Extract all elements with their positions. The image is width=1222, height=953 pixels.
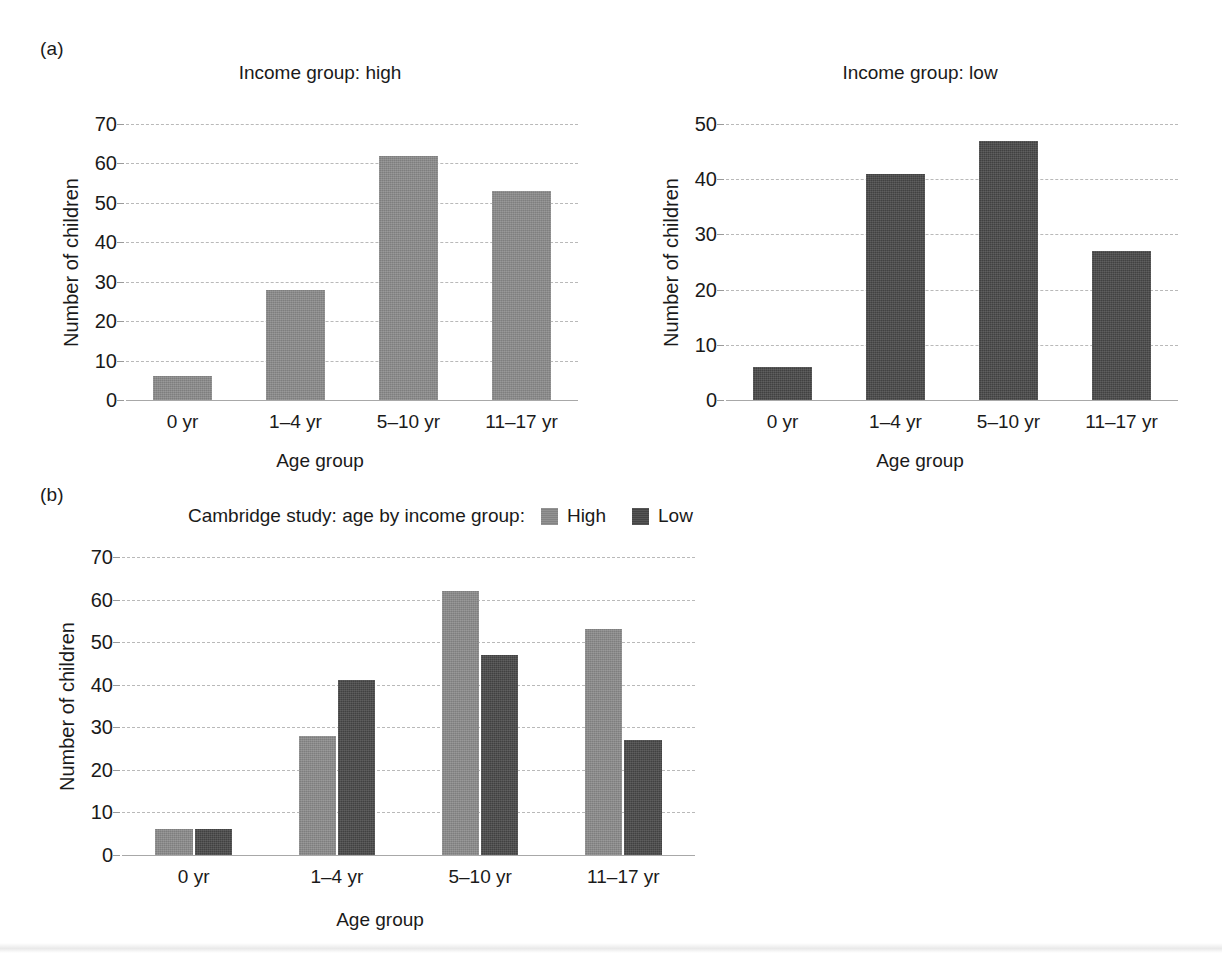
y-tick-label-50: 50 bbox=[695, 114, 717, 134]
bar-high-0 bbox=[155, 829, 192, 855]
y-tick-mark-40 bbox=[117, 242, 124, 243]
bar-low-0 bbox=[753, 367, 812, 400]
y-tick-label-60: 60 bbox=[91, 590, 113, 610]
legend-item-low[interactable]: Low bbox=[632, 505, 693, 527]
y-tick-mark-30 bbox=[117, 282, 124, 283]
gridline-0 bbox=[122, 855, 695, 856]
bar-low-2 bbox=[481, 655, 518, 855]
chart-high-plot-area: 0102030405060700 yr1–4 yr5–10 yr11–17 yr bbox=[126, 124, 578, 400]
y-tick-mark-10 bbox=[113, 812, 120, 813]
chart-combined-x-axis-label: Age group bbox=[40, 909, 720, 931]
gridline-30 bbox=[726, 234, 1178, 235]
x-tick-label-0: 0 yr bbox=[178, 866, 210, 888]
y-tick-label-40: 40 bbox=[95, 232, 117, 252]
gridline-60 bbox=[122, 600, 695, 601]
y-tick-mark-20 bbox=[113, 770, 120, 771]
x-tick-label-0: 0 yr bbox=[767, 411, 799, 433]
y-tick-mark-70 bbox=[113, 557, 120, 558]
bar-low-3 bbox=[624, 740, 661, 855]
chart-income-low: Income group: low Number of children 010… bbox=[640, 62, 1200, 462]
bar-low-3 bbox=[1092, 251, 1151, 400]
y-tick-mark-30 bbox=[717, 234, 724, 235]
legend-swatch-low-icon bbox=[632, 508, 649, 525]
gridline-70 bbox=[126, 124, 578, 125]
y-tick-label-50: 50 bbox=[95, 193, 117, 213]
chart-low-plot-area: 010203040500 yr1–4 yr5–10 yr11–17 yr bbox=[726, 124, 1178, 400]
y-tick-mark-30 bbox=[113, 727, 120, 728]
chart-low-y-axis-label: Number of children bbox=[660, 178, 683, 347]
x-tick-label-3: 11–17 yr bbox=[1085, 411, 1158, 433]
y-tick-label-10: 10 bbox=[91, 802, 113, 822]
y-tick-label-20: 20 bbox=[695, 280, 717, 300]
chart-combined-legend: Cambridge study: age by income group: Hi… bbox=[188, 505, 719, 527]
bar-high-0 bbox=[153, 376, 212, 400]
bar-high-2 bbox=[442, 591, 479, 855]
x-tick-label-3: 11–17 yr bbox=[485, 411, 558, 433]
x-tick-label-2: 5–10 yr bbox=[448, 866, 511, 888]
bar-high-1 bbox=[299, 736, 336, 855]
bar-high-3 bbox=[585, 629, 622, 855]
bar-low-0 bbox=[195, 829, 232, 855]
x-tick-label-0: 0 yr bbox=[167, 411, 199, 433]
y-tick-label-0: 0 bbox=[706, 390, 717, 410]
y-tick-mark-10 bbox=[117, 361, 124, 362]
x-tick-label-1: 1–4 yr bbox=[310, 866, 363, 888]
y-tick-mark-0 bbox=[113, 855, 120, 856]
chart-combined-y-axis-label: Number of children bbox=[56, 622, 79, 791]
bar-high-3 bbox=[492, 191, 551, 400]
chart-income-high: Income group: high Number of children 01… bbox=[40, 62, 600, 462]
legend-item-high[interactable]: High bbox=[541, 505, 606, 527]
y-tick-mark-50 bbox=[117, 203, 124, 204]
y-tick-label-0: 0 bbox=[106, 390, 117, 410]
gridline-0 bbox=[126, 400, 578, 401]
panel-b-label: (b) bbox=[40, 484, 64, 506]
legend-swatch-high-icon bbox=[541, 508, 558, 525]
x-tick-label-3: 11–17 yr bbox=[587, 866, 660, 888]
chart-high-title: Income group: high bbox=[40, 62, 600, 84]
y-tick-label-70: 70 bbox=[91, 547, 113, 567]
y-tick-mark-60 bbox=[113, 600, 120, 601]
y-tick-mark-0 bbox=[717, 400, 724, 401]
bar-low-1 bbox=[338, 680, 375, 855]
y-tick-label-70: 70 bbox=[95, 114, 117, 134]
y-tick-mark-20 bbox=[117, 321, 124, 322]
chart-combined-title: Cambridge study: age by income group: bbox=[188, 505, 525, 527]
x-tick-label-1: 1–4 yr bbox=[869, 411, 922, 433]
x-tick-label-2: 5–10 yr bbox=[377, 411, 440, 433]
bar-low-1 bbox=[866, 174, 925, 400]
gridline-0 bbox=[726, 400, 1178, 401]
chart-combined: Cambridge study: age by income group: Hi… bbox=[40, 505, 720, 925]
y-tick-mark-70 bbox=[117, 124, 124, 125]
chart-low-x-axis-label: Age group bbox=[640, 450, 1200, 472]
scan-edge-artifact bbox=[0, 943, 1222, 953]
x-tick-label-1: 1–4 yr bbox=[269, 411, 322, 433]
y-tick-mark-10 bbox=[717, 345, 724, 346]
x-tick-label-2: 5–10 yr bbox=[977, 411, 1040, 433]
gridline-70 bbox=[122, 557, 695, 558]
y-tick-mark-60 bbox=[117, 163, 124, 164]
gridline-40 bbox=[726, 179, 1178, 180]
y-tick-label-30: 30 bbox=[91, 717, 113, 737]
y-tick-mark-20 bbox=[717, 290, 724, 291]
y-tick-label-0: 0 bbox=[102, 845, 113, 865]
chart-high-y-axis-label: Number of children bbox=[60, 178, 83, 347]
y-tick-mark-0 bbox=[117, 400, 124, 401]
panel-a-label: (a) bbox=[40, 38, 64, 60]
y-tick-label-20: 20 bbox=[95, 311, 117, 331]
gridline-60 bbox=[126, 163, 578, 164]
bar-high-1 bbox=[266, 290, 325, 400]
y-tick-label-30: 30 bbox=[95, 272, 117, 292]
y-tick-label-40: 40 bbox=[695, 169, 717, 189]
y-tick-label-30: 30 bbox=[695, 224, 717, 244]
y-tick-label-20: 20 bbox=[91, 760, 113, 780]
bar-high-2 bbox=[379, 156, 438, 400]
bar-low-2 bbox=[979, 141, 1038, 400]
chart-high-x-axis-label: Age group bbox=[40, 450, 600, 472]
y-tick-label-40: 40 bbox=[91, 675, 113, 695]
y-tick-label-60: 60 bbox=[95, 153, 117, 173]
y-tick-mark-50 bbox=[113, 642, 120, 643]
y-tick-label-50: 50 bbox=[91, 632, 113, 652]
chart-combined-plot-area: 0102030405060700 yr1–4 yr5–10 yr11–17 yr bbox=[122, 557, 695, 855]
legend-label-low: Low bbox=[658, 505, 693, 527]
y-tick-mark-40 bbox=[113, 685, 120, 686]
